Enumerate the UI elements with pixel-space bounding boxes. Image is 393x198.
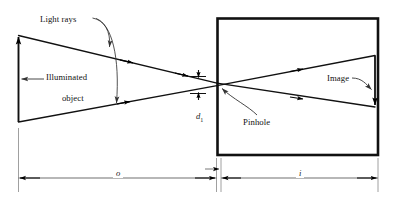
ray-arrow-lower-1: [117, 102, 130, 104]
pinhole-camera-figure: Light rays Illuminated object Image Pinh…: [0, 0, 393, 198]
label-object-distance: o: [113, 168, 123, 178]
aperture-dimension: [190, 70, 206, 100]
label-aperture-diameter-subscript: 1: [200, 117, 203, 123]
label-illuminated-object-line2: object: [62, 93, 84, 103]
light-rays-leader-curve-2: [96, 19, 117, 104]
label-image-distance: i: [296, 168, 304, 178]
label-illuminated-object-line1: Illuminated: [46, 72, 87, 82]
label-light-rays: Light rays: [40, 14, 76, 24]
ray-arrow-upper-2: [175, 73, 188, 76]
label-aperture-diameter: d1: [196, 111, 203, 123]
label-pinhole: Pinhole: [243, 117, 270, 127]
label-image: Image: [327, 73, 349, 83]
light-rays-leader: [93, 18, 118, 103]
ray-arrow-upper-1: [120, 60, 133, 63]
label-illuminated-object: Illuminated object: [46, 72, 87, 103]
light-rays-leader-curve-1: [93, 18, 110, 47]
